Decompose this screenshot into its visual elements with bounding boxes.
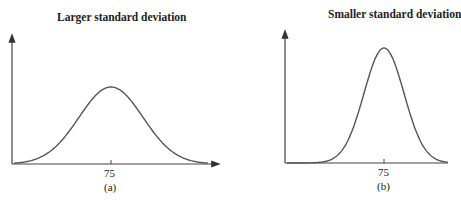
chart-a-tick-label: 75 [104, 167, 115, 179]
chart-b-caption: (b) [377, 180, 390, 192]
chart-a [12, 38, 216, 164]
chart-b-tick-label: 75 [378, 166, 389, 178]
curve-b [287, 48, 448, 163]
chart-a-caption: (a) [104, 181, 116, 193]
chart-a-title: Larger standard deviation [57, 11, 187, 23]
chart-b-title: Smaller standard deviation [328, 8, 461, 20]
curve-a [14, 87, 208, 163]
chart-b [285, 34, 448, 163]
